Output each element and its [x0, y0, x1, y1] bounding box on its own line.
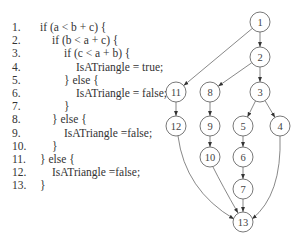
node-label: 8: [207, 87, 212, 98]
node-label: 9: [207, 121, 212, 132]
node-label: 4: [277, 121, 283, 132]
node-label: 5: [240, 121, 245, 132]
node-label: 13: [238, 217, 249, 228]
graph-node-6: 6: [233, 147, 253, 167]
edge-3-to-4: [265, 101, 275, 118]
node-label: 7: [240, 184, 245, 195]
node-label: 11: [171, 87, 181, 98]
node-label: 6: [240, 152, 245, 163]
graph-node-3: 3: [250, 82, 270, 102]
edge-1-to-11: [184, 28, 253, 85]
node-label: 2: [257, 52, 262, 63]
graph-node-1: 1: [250, 12, 270, 32]
node-label: 10: [205, 152, 216, 163]
edge-3-to-5: [247, 101, 255, 117]
control-flow-graph: 12345678910111213: [0, 0, 303, 241]
graph-node-7: 7: [233, 179, 253, 199]
edge-2-to-8: [218, 63, 252, 87]
graph-node-11: 11: [166, 82, 186, 102]
graph-node-10: 10: [200, 147, 220, 167]
graph-node-5: 5: [233, 116, 253, 136]
graph-node-12: 12: [166, 116, 186, 136]
graph-node-8: 8: [200, 82, 220, 102]
edge-4-to-13: [252, 136, 280, 219]
node-label: 12: [171, 121, 182, 132]
node-label: 1: [257, 17, 262, 28]
graph-node-9: 9: [200, 116, 220, 136]
graph-node-2: 2: [250, 47, 270, 67]
node-label: 3: [257, 87, 262, 98]
graph-node-13: 13: [233, 212, 253, 232]
graph-node-4: 4: [270, 116, 290, 136]
